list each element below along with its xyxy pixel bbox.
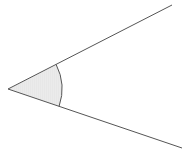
upper-ray (8, 5, 172, 89)
angle-diagram (0, 0, 190, 162)
lower-ray (8, 89, 182, 148)
